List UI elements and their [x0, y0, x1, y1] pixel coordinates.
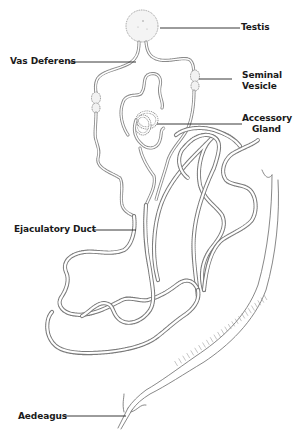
seminal-vesicle-left [92, 92, 101, 113]
label-aedeagus: Aedeagus [18, 411, 67, 422]
sheath-hatch-mark [218, 332, 221, 337]
sheath-hatch-mark [248, 308, 251, 313]
sheath-hatch-mark [210, 337, 213, 342]
sheath-hatch-mark [203, 343, 206, 348]
label-seminal-vesicle-line1: Seminal [242, 70, 282, 81]
leader-lines [64, 28, 242, 416]
sheath-hatching [175, 295, 267, 366]
label-accessory-gland-line1: Accessory [242, 113, 292, 124]
sheath-hatch-mark [255, 303, 258, 308]
sheath-hatch-mark [245, 311, 248, 316]
label-testis: Testis [241, 22, 270, 33]
sheath-hatch-mark [191, 350, 194, 355]
sheath-hatch-mark [206, 340, 209, 345]
sheath-hatch-mark [175, 361, 178, 366]
sheath-hatch-mark [264, 295, 267, 300]
sheath-hatch-mark [179, 358, 182, 363]
label-ejaculatory-duct: Ejaculatory Duct [14, 224, 96, 235]
sheath-hatch-mark [225, 327, 228, 332]
sheath-hatch-mark [183, 356, 186, 361]
testis [126, 10, 158, 42]
sheath-hatch-mark [214, 335, 217, 340]
sheath-hatch-mark [221, 329, 224, 334]
diagram-canvas: Testis Vas Deferens Seminal Vesicle Acce… [0, 0, 298, 439]
sheath-hatch-mark [251, 306, 254, 311]
sheath-hatch-mark [242, 313, 245, 318]
label-vas-deferens: Vas Deferens [10, 56, 76, 67]
accessory-gland [121, 74, 164, 205]
left-duct [95, 113, 134, 216]
label-seminal-vesicle-line2: Vesicle [242, 81, 277, 92]
seminal-vesicle-right [191, 70, 200, 91]
sheath-hatch-mark [199, 345, 202, 350]
label-accessory-gland-line2: Gland [252, 124, 281, 135]
sheath-hatch-mark [195, 348, 198, 353]
sheath-hatch-mark [187, 353, 190, 358]
